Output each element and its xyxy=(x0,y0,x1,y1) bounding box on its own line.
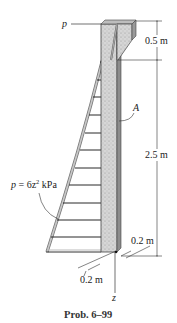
dimension-width-label: 0.2 m xyxy=(80,274,103,285)
wall-bracket xyxy=(117,24,132,60)
dimension-top-label: 0.5 m xyxy=(145,35,168,46)
pressure-marker: p xyxy=(61,18,101,29)
dimension-main-label: 2.5 m xyxy=(145,149,168,160)
wall xyxy=(101,20,136,252)
load-area xyxy=(46,60,101,252)
load-equation-leader xyxy=(39,193,58,219)
load-equation: p = 6z2 kPa xyxy=(10,178,58,219)
engineering-figure: p 0.5 m 2.5 m A p = 6z2 kPa 0.2 m 0.2 m xyxy=(0,0,177,323)
point-a-marker: A xyxy=(119,102,140,121)
dimension-vertical xyxy=(118,21,162,256)
dimension-thickness-label: 0.2 m xyxy=(131,235,154,246)
wall-bracket-side xyxy=(132,20,136,40)
load-equation-label: p = 6z2 kPa xyxy=(10,178,57,190)
wall-top-face xyxy=(101,20,136,24)
figure-caption: Prob. 6–99 xyxy=(64,309,112,320)
z-axis-label: z xyxy=(111,292,116,303)
z-axis: z xyxy=(111,251,117,303)
wall-front-face xyxy=(101,24,117,252)
pressure-symbol-label: p xyxy=(61,18,67,29)
point-a-label: A xyxy=(132,102,140,113)
